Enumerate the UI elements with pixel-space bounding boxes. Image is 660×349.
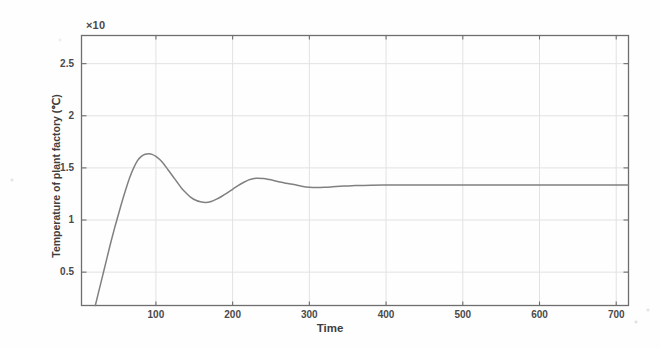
x-tick-label: 600 [520,309,560,320]
plot-frame [82,36,629,306]
grid-lines [82,36,629,306]
y-tick-label: 2.5 [44,58,74,69]
x-tick-label: 300 [289,309,329,320]
x-tick-label: 100 [136,309,176,320]
figure-canvas: ×10 Temperature of plant factory (℃) Tim… [0,0,660,349]
x-tick-label: 500 [443,309,483,320]
plot-area [0,0,660,349]
x-tick-label: 400 [366,309,406,320]
x-tick-label: 200 [213,309,253,320]
x-tick-label: 700 [596,309,636,320]
y-tick-label: 0.5 [44,266,74,277]
y-tick-label: 2 [44,110,74,121]
tick-marks [82,36,629,306]
y-tick-label: 1 [44,214,74,225]
data-series-line [95,154,628,306]
y-tick-label: 1.5 [44,162,74,173]
